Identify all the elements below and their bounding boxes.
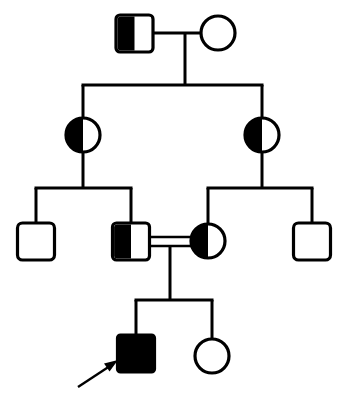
half-fill-left — [118, 17, 135, 51]
pedigree-chart — [0, 0, 350, 397]
square-symbol-male — [18, 223, 55, 260]
square-symbol-male — [294, 223, 331, 260]
individual-IV-2[interactable] — [195, 339, 229, 373]
proband-arrow — [78, 360, 118, 387]
individual-I-2[interactable] — [201, 16, 235, 50]
individual-III-4[interactable] — [294, 223, 331, 260]
individual-II-2[interactable] — [245, 118, 279, 152]
pedigree-canvas — [0, 0, 350, 397]
individual-III-1[interactable] — [18, 223, 55, 260]
individual-III-2[interactable] — [113, 223, 150, 260]
individual-I-1[interactable] — [116, 15, 153, 52]
generation-2-group — [66, 85, 279, 189]
generation-1-group — [116, 15, 235, 86]
generation-4-group — [78, 300, 229, 387]
individual-III-3[interactable] — [191, 224, 225, 258]
circle-symbol-female — [195, 339, 229, 373]
square-symbol-male — [118, 335, 155, 372]
half-fill-left — [114, 225, 131, 259]
generation-3-group — [18, 188, 331, 301]
circle-symbol-female — [201, 16, 235, 50]
individual-IV-1-proband[interactable] — [118, 335, 155, 372]
individual-II-1[interactable] — [66, 118, 100, 152]
